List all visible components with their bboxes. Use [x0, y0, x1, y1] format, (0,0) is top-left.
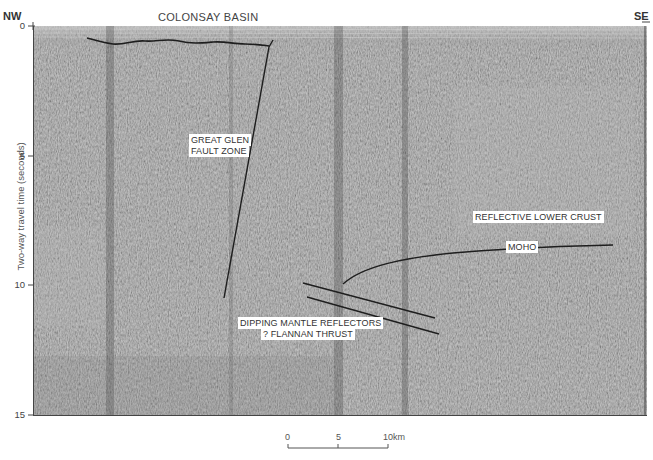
y-tick-0: 0 — [5, 20, 25, 31]
scale-tick-5: 5 — [336, 432, 341, 442]
scale-tick-10km: 10km — [383, 432, 405, 442]
figure-title: COLONSAY BASIN — [158, 11, 258, 23]
dipping-mantle-reflector-upper — [303, 283, 435, 318]
scale-tick-0: 0 — [285, 432, 290, 442]
great-glen-fault-line — [224, 40, 273, 298]
se-direction-label: SE — [634, 10, 649, 22]
interpretation-overlay: GREAT GLEN FAULT ZONE REFLECTIVE LOWER C… — [33, 26, 646, 415]
y-axis-label: Two-way travel time (seconds) — [15, 151, 26, 271]
colonsay-basin-floor-line — [87, 38, 269, 46]
moho-line — [343, 245, 613, 284]
flannan-thrust-label: ? FLANNAN THRUST — [261, 328, 355, 340]
moho-label: MOHO — [506, 241, 538, 253]
y-tick-10: 10 — [5, 279, 25, 290]
great-glen-label-2: FAULT ZONE — [189, 145, 249, 157]
scale-bar — [288, 444, 388, 448]
reflective-lower-crust-label: REFLECTIVE LOWER CRUST — [473, 211, 604, 223]
y-tick-15: 15 — [5, 409, 25, 420]
